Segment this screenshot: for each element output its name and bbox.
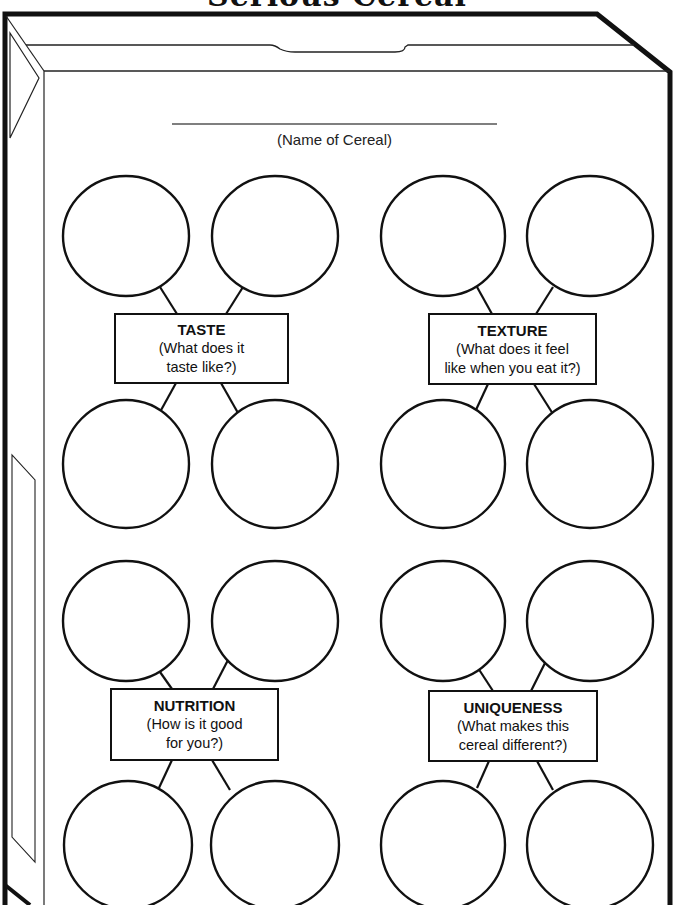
cereal-name-label: (Name of Cereal) (172, 131, 497, 148)
texture-answer-circle-2[interactable] (527, 176, 653, 296)
uniqueness-answer-circle-4[interactable] (527, 781, 653, 905)
nutrition-answer-circle-1[interactable] (63, 561, 189, 681)
nutrition-answer-circle-4[interactable] (211, 781, 339, 905)
cereal-name-input[interactable] (172, 104, 501, 126)
uniqueness-question: (What makes this cereal different?) (457, 717, 569, 755)
nutrition-label-box: NUTRITION (How is it good for you?) (110, 688, 279, 761)
taste-answer-circle-1[interactable] (63, 176, 189, 296)
uniqueness-label-box: UNIQUENESS (What makes this cereal diffe… (428, 690, 598, 762)
texture-question: (What does it feel like when you eat it?… (444, 340, 580, 378)
nutrition-answer-circle-3[interactable] (64, 781, 192, 905)
texture-heading: TEXTURE (477, 321, 547, 340)
texture-label-box: TEXTURE (What does it feel like when you… (428, 313, 597, 385)
uniqueness-answer-circle-2[interactable] (527, 561, 653, 681)
texture-answer-circle-3[interactable] (381, 400, 505, 528)
texture-answer-circle-1[interactable] (381, 176, 505, 296)
texture-answer-circle-4[interactable] (527, 400, 653, 528)
taste-question: (What does it taste like?) (159, 339, 244, 377)
nutrition-heading: NUTRITION (154, 696, 236, 715)
taste-answer-circle-3[interactable] (63, 400, 189, 528)
nutrition-answer-circle-2[interactable] (212, 561, 338, 681)
nutrition-question: (How is it good for you?) (147, 715, 243, 753)
uniqueness-answer-circle-1[interactable] (381, 561, 505, 681)
uniqueness-answer-circle-3[interactable] (381, 781, 505, 905)
taste-label-box: TASTE (What does it taste like?) (114, 313, 289, 384)
taste-answer-circle-2[interactable] (212, 176, 338, 296)
uniqueness-heading: UNIQUENESS (463, 698, 562, 717)
taste-heading: TASTE (177, 320, 225, 339)
taste-answer-circle-4[interactable] (212, 400, 338, 528)
